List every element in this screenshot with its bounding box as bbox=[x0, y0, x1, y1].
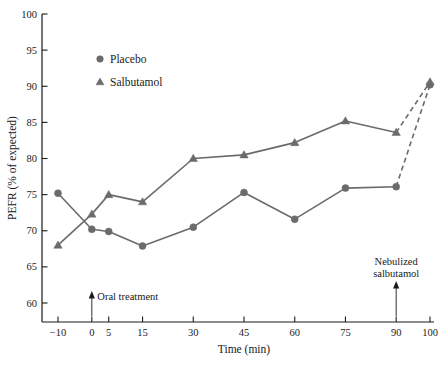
y-tick-label: 90 bbox=[27, 81, 38, 92]
data-point-circle bbox=[105, 228, 112, 235]
annotation-nebulized-line2: salbutamol bbox=[373, 268, 419, 279]
data-point-circle bbox=[88, 226, 95, 233]
series-line-dashed bbox=[396, 82, 430, 133]
series-line-dashed bbox=[396, 85, 430, 187]
data-point-circle bbox=[190, 224, 197, 231]
y-tick-label: 65 bbox=[27, 261, 38, 272]
y-tick-label: 70 bbox=[27, 225, 38, 236]
annotation-arrow-head bbox=[89, 291, 95, 299]
series-line-solid bbox=[58, 121, 396, 245]
series-placebo bbox=[55, 81, 434, 249]
data-point-circle bbox=[291, 216, 298, 223]
data-point-triangle bbox=[105, 190, 113, 197]
legend bbox=[96, 56, 104, 85]
y-tick-label: 75 bbox=[27, 189, 38, 200]
x-axis-title: Time (min) bbox=[218, 343, 270, 356]
y-tick-label: 80 bbox=[27, 153, 38, 164]
annotation-nebulized-line1: Nebulized bbox=[375, 256, 419, 267]
legend-label-placebo: Placebo bbox=[110, 53, 147, 65]
x-tick-label: 90 bbox=[391, 327, 402, 338]
x-tick-label: −10 bbox=[50, 327, 66, 338]
y-tick-label: 95 bbox=[27, 45, 38, 56]
legend-label-salbutamol: Salbutamol bbox=[110, 76, 162, 88]
x-tick-label: 45 bbox=[239, 327, 250, 338]
data-point-circle bbox=[241, 189, 248, 196]
chart-container: 6065707580859095100−1005153045607590100T… bbox=[0, 0, 447, 375]
series-salbutamol bbox=[54, 78, 434, 249]
x-tick-label: 60 bbox=[289, 327, 300, 338]
data-point-circle bbox=[342, 185, 349, 192]
y-tick-label: 100 bbox=[21, 9, 37, 20]
x-axis-ticks bbox=[58, 317, 430, 323]
pefr-line-chart: 6065707580859095100−1005153045607590100T… bbox=[0, 0, 447, 375]
annotation-oral-treatment-label: Oral treatment bbox=[97, 291, 158, 302]
y-axis-ticks bbox=[42, 14, 48, 303]
data-point-circle bbox=[393, 183, 400, 190]
x-tick-label: 100 bbox=[422, 327, 438, 338]
data-point-circle bbox=[97, 56, 104, 63]
x-tick-label: 75 bbox=[340, 327, 351, 338]
data-point-triangle bbox=[426, 78, 434, 85]
annotation-nebulized-salbutamol bbox=[393, 281, 399, 316]
annotation-arrow-head bbox=[393, 281, 399, 289]
annotation-oral-treatment bbox=[89, 291, 95, 316]
x-tick-label: 15 bbox=[137, 327, 148, 338]
y-tick-label: 85 bbox=[27, 117, 38, 128]
y-tick-label: 60 bbox=[27, 298, 38, 309]
data-point-circle bbox=[55, 190, 62, 197]
data-point-triangle bbox=[341, 117, 349, 124]
data-point-circle bbox=[139, 242, 146, 249]
data-point-triangle bbox=[96, 78, 104, 85]
x-tick-label: 30 bbox=[188, 327, 199, 338]
x-tick-label: 0 bbox=[89, 327, 94, 338]
x-tick-label: 5 bbox=[106, 327, 111, 338]
y-axis-title: PEFR (% of expected) bbox=[6, 116, 19, 220]
